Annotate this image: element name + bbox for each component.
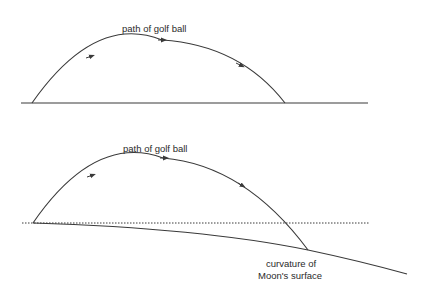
golf-ball-diagram: path of golf ball path of golf ball curv… (0, 0, 421, 292)
golf-ball-trajectory-bottom (33, 153, 163, 223)
surface-label-line2: Moon's surface (258, 270, 322, 281)
arrow-icon (87, 175, 93, 177)
arrow-icon (86, 56, 92, 58)
moon-surface-curve (33, 223, 407, 274)
surface-label-line1: curvature of (266, 258, 317, 269)
top-path-label: path of golf ball (122, 23, 186, 34)
bottom-path-label: path of golf ball (123, 143, 187, 154)
golf-ball-trajectory-top (32, 34, 162, 103)
arrow-icon (238, 183, 243, 186)
bottom-diagram: path of golf ball curvature of Moon's su… (22, 143, 407, 281)
top-diagram: path of golf ball (21, 23, 368, 103)
